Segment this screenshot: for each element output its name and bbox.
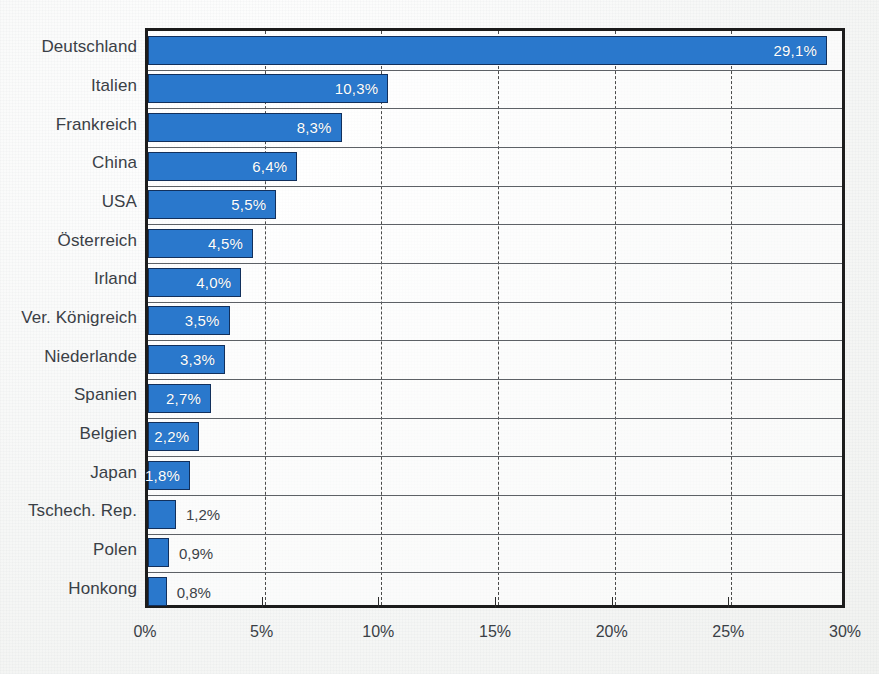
- category-label: Belgien: [80, 424, 137, 444]
- category-label: Honkong: [68, 579, 137, 599]
- bar-value-label: 3,3%: [180, 351, 224, 368]
- bar[interactable]: 2,2%: [148, 422, 199, 451]
- bar-value-label: 2,7%: [166, 390, 210, 407]
- x-tick-mark: [262, 597, 263, 608]
- bar-value-label: 29,1%: [773, 42, 826, 59]
- category-label: Deutschland: [41, 37, 137, 57]
- x-tick-label: 15%: [479, 623, 511, 641]
- bar[interactable]: 4,5%: [148, 229, 253, 258]
- x-tick-label: 10%: [362, 623, 394, 641]
- x-tick-mark: [495, 597, 496, 608]
- x-tick-mark: [378, 597, 379, 608]
- bars: 29,1%10,3%8,3%6,4%5,5%4,5%4,0%3,5%3,3%2,…: [148, 31, 842, 605]
- bar-value-label: 1,8%: [145, 467, 189, 484]
- bar[interactable]: 4,0%: [148, 268, 241, 297]
- x-tick-mark: [728, 597, 729, 608]
- bar-row: 1,2%: [148, 495, 842, 534]
- category-label: Österreich: [58, 231, 137, 251]
- category-label: Polen: [93, 540, 137, 560]
- bar-row: 1,8%: [148, 456, 842, 495]
- bar-row: 5,5%: [148, 186, 842, 225]
- bar[interactable]: 1,8%: [148, 461, 190, 490]
- x-tick-label: 20%: [596, 623, 628, 641]
- bar-value-label: 6,4%: [252, 158, 296, 175]
- bar[interactable]: 2,7%: [148, 384, 211, 413]
- bar-row: 2,2%: [148, 418, 842, 457]
- category-label: Spanien: [74, 385, 137, 405]
- bar-row: 2,7%: [148, 379, 842, 418]
- bar[interactable]: 29,1%: [148, 36, 827, 65]
- category-label: Japan: [90, 463, 137, 483]
- x-tick-label: 0%: [133, 623, 156, 641]
- bar-value-label: 5,5%: [231, 196, 275, 213]
- plot-area: 29,1%10,3%8,3%6,4%5,5%4,5%4,0%3,5%3,3%2,…: [145, 28, 845, 608]
- x-tick-label: 30%: [829, 623, 861, 641]
- x-tick-mark: [612, 597, 613, 608]
- bar-row: 29,1%: [148, 31, 842, 70]
- category-label: Frankreich: [56, 115, 137, 135]
- bar-value-label: 0,8%: [177, 583, 211, 600]
- bar-value-label: 10,3%: [335, 80, 388, 97]
- bar[interactable]: 6,4%: [148, 152, 297, 181]
- bar[interactable]: [148, 538, 169, 567]
- bar-row: 6,4%: [148, 147, 842, 186]
- bar-row: 4,0%: [148, 263, 842, 302]
- bar-value-label: 3,5%: [185, 312, 229, 329]
- bar-row: 10,3%: [148, 70, 842, 109]
- bar-row: 3,3%: [148, 340, 842, 379]
- bar[interactable]: 3,3%: [148, 345, 225, 374]
- bar-row: 4,5%: [148, 224, 842, 263]
- bar-value-label: 2,2%: [154, 428, 198, 445]
- bar-row: 3,5%: [148, 302, 842, 341]
- category-label: China: [92, 153, 137, 173]
- category-label: Italien: [91, 76, 137, 96]
- bar[interactable]: 8,3%: [148, 113, 342, 142]
- bar-row: 0,9%: [148, 534, 842, 573]
- bar[interactable]: [148, 500, 176, 529]
- category-axis: DeutschlandItalienFrankreichChinaUSAÖste…: [0, 28, 137, 608]
- bar-value-label: 0,9%: [179, 544, 213, 561]
- bar-value-label: 1,2%: [186, 506, 220, 523]
- category-label: Tschech. Rep.: [28, 501, 137, 521]
- bar[interactable]: 10,3%: [148, 74, 388, 103]
- category-label: USA: [102, 192, 137, 212]
- x-tick-label: 5%: [250, 623, 273, 641]
- bar[interactable]: 3,5%: [148, 306, 230, 335]
- bar[interactable]: [148, 577, 167, 606]
- category-label: Niederlande: [44, 347, 137, 367]
- x-axis: 0%5%10%15%20%25%30%: [145, 611, 845, 651]
- bar-value-label: 8,3%: [297, 119, 341, 136]
- bar-value-label: 4,0%: [196, 274, 240, 291]
- bar-row: 8,3%: [148, 108, 842, 147]
- category-label: Irland: [94, 269, 137, 289]
- bar[interactable]: 5,5%: [148, 190, 276, 219]
- bar-value-label: 4,5%: [208, 235, 252, 252]
- category-label: Ver. Königreich: [21, 308, 137, 328]
- x-tick-label: 25%: [712, 623, 744, 641]
- bar-chart: DeutschlandItalienFrankreichChinaUSAÖste…: [0, 0, 879, 674]
